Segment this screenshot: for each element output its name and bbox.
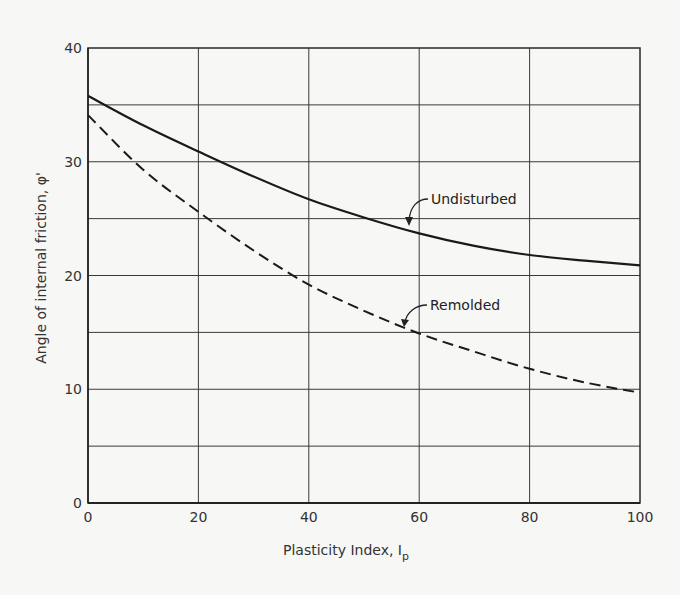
x-tick-label: 20 [189,509,207,525]
arrow-icon [405,305,427,322]
undisturbed-label: Undisturbed [431,191,517,207]
x-tick-labels: 020406080100 [84,509,654,525]
y-tick-label: 20 [64,268,82,284]
y-tick-label: 0 [73,495,82,511]
annotation-remolded: Remolded [401,297,500,327]
remolded-label: Remolded [430,297,500,313]
y-tick-label: 40 [64,40,82,56]
x-tick-label: 80 [521,509,539,525]
y-tick-label: 10 [64,381,82,397]
x-axis-label: Plasticity Index, Ip [283,542,409,563]
y-tick-label: 30 [64,154,82,170]
arrowhead-icon [401,319,409,327]
grid-lines [88,48,640,503]
undisturbed-curve [88,96,640,265]
x-tick-label: 0 [84,509,93,525]
remolded-curve [88,115,640,393]
x-tick-label: 100 [627,509,654,525]
y-axis-label: Angle of internal friction, φ' [33,172,49,363]
chart: 020406080100 010203040 Undisturbed Remol… [0,0,680,595]
annotation-undisturbed: Undisturbed [405,191,517,226]
x-tick-label: 60 [410,509,428,525]
arrowhead-icon [405,217,413,226]
y-tick-labels: 010203040 [64,40,82,511]
x-tick-label: 40 [300,509,318,525]
